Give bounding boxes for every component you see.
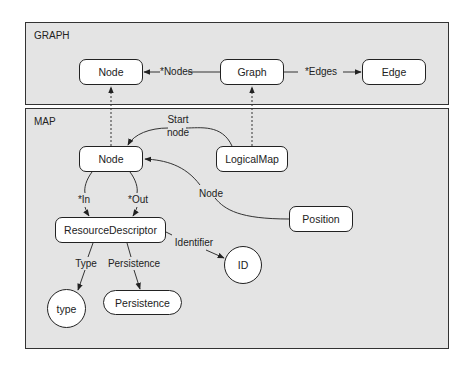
edge-label-identifier: Identifier xyxy=(172,237,216,249)
map-node-logicalmap: LogicalMap xyxy=(216,146,288,172)
edge-label-edges: *Edges xyxy=(299,66,343,78)
edge-label-nodes: *Nodes xyxy=(160,66,190,78)
edge-label-start-node-1: Start xyxy=(166,114,190,126)
graph-node-graph: Graph xyxy=(220,59,284,85)
edge-label-start-node-2: node xyxy=(166,127,190,139)
map-node-position: Position xyxy=(289,206,353,232)
map-node-resourcedescriptor: ResourceDescriptor xyxy=(55,217,166,243)
edge-label-type: Type xyxy=(74,258,98,270)
map-node-id: ID xyxy=(224,246,262,284)
map-panel-title: MAP xyxy=(34,116,56,127)
edge-label-position-node: Node xyxy=(196,188,226,200)
map-node-persistence: Persistence xyxy=(103,290,182,315)
graph-node-edge: Edge xyxy=(362,59,426,85)
edge-label-persistence: Persistence xyxy=(106,258,162,270)
graph-panel-title: GRAPH xyxy=(34,30,70,41)
map-node-node: Node xyxy=(79,146,143,172)
map-node-type: type xyxy=(47,289,86,328)
edge-label-out: *Out xyxy=(124,194,152,206)
graph-node-node: Node xyxy=(79,59,143,85)
edge-label-in: *In xyxy=(74,194,94,206)
